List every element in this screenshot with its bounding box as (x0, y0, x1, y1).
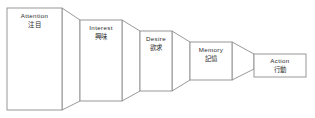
desire-front-face (140, 31, 172, 91)
attention-front-face (7, 8, 62, 110)
action-front-face (254, 54, 306, 77)
funnel-shapes (0, 0, 315, 118)
aidma-funnel-diagram: Attention 注目 Interest 興味 Desire 欲求 Memor… (0, 0, 315, 118)
memory-side-face (232, 42, 254, 80)
desire-side-face (172, 31, 190, 91)
interest-front-face (80, 20, 122, 101)
memory-front-face (190, 42, 232, 80)
interest-side-face (122, 20, 140, 101)
attention-side-face (62, 8, 80, 110)
